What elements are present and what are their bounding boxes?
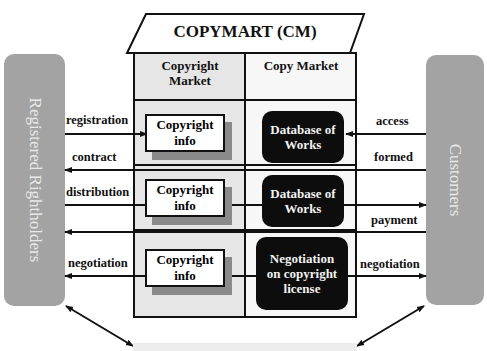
distribution-label: distribution [66, 185, 129, 200]
copyright-info-box: Copyright info [145, 179, 225, 217]
copymart-title: COPYMART (CM) [134, 22, 356, 42]
copyright-info-box: Copyright info [145, 114, 225, 152]
contract-label: contract [72, 150, 116, 165]
copyright-info-box: Copyright info [145, 249, 225, 287]
negotiation-left-label: negotiation [68, 256, 128, 271]
negotiation-license-box: Negotiation on copyright license [256, 237, 348, 310]
database-of-works-box: Database of Works [262, 175, 344, 227]
copyright-market-header: Copyright Market [140, 58, 240, 88]
access-label: access [376, 114, 409, 129]
diagram-lines [0, 0, 487, 351]
registration-label: registration [66, 113, 128, 128]
copy-market-header: Copy Market [248, 58, 354, 73]
database-of-works-box: Database of Works [262, 111, 344, 163]
formed-label: formed [374, 150, 413, 165]
payment-label: payment [371, 213, 418, 228]
negotiation-right-label: negotiation [360, 257, 420, 272]
